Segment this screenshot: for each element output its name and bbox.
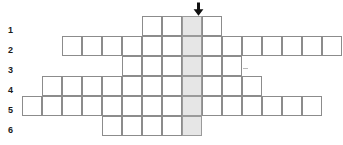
row-number-3: 3 xyxy=(8,66,20,75)
puzzle-cell[interactable] xyxy=(122,56,142,76)
row-number-1: 1 xyxy=(8,26,20,35)
puzzle-cell[interactable] xyxy=(262,36,282,56)
puzzle-cell[interactable] xyxy=(322,36,342,56)
puzzle-cell[interactable] xyxy=(142,56,162,76)
puzzle-cell[interactable] xyxy=(142,96,162,116)
puzzle-cell[interactable] xyxy=(102,96,122,116)
row-number-5: 5 xyxy=(8,106,20,115)
puzzle-cell[interactable] xyxy=(162,116,182,136)
puzzle-cell[interactable] xyxy=(162,16,182,36)
puzzle-cell[interactable] xyxy=(142,76,162,96)
crossword-puzzle-grid: 123456 xyxy=(0,0,343,145)
faint-mark-row-3 xyxy=(243,68,248,69)
puzzle-cell[interactable] xyxy=(162,96,182,116)
puzzle-cell[interactable] xyxy=(142,16,162,36)
puzzle-cell[interactable] xyxy=(42,96,62,116)
puzzle-cell[interactable] xyxy=(302,36,322,56)
puzzle-cell[interactable] xyxy=(122,76,142,96)
row-number-4: 4 xyxy=(8,86,20,95)
puzzle-cell[interactable] xyxy=(82,76,102,96)
puzzle-cell[interactable] xyxy=(222,76,242,96)
puzzle-cell[interactable] xyxy=(302,96,322,116)
puzzle-cell[interactable] xyxy=(82,96,102,116)
row-number-2: 2 xyxy=(8,46,20,55)
puzzle-cell-highlighted[interactable] xyxy=(182,116,202,136)
puzzle-cell[interactable] xyxy=(202,76,222,96)
puzzle-cell[interactable] xyxy=(162,56,182,76)
puzzle-cell[interactable] xyxy=(62,76,82,96)
puzzle-cell[interactable] xyxy=(122,116,142,136)
puzzle-cell[interactable] xyxy=(242,36,262,56)
puzzle-cell-highlighted[interactable] xyxy=(182,76,202,96)
puzzle-cell[interactable] xyxy=(222,96,242,116)
row-number-6: 6 xyxy=(8,126,20,135)
puzzle-cell-highlighted[interactable] xyxy=(182,16,202,36)
puzzle-cell-highlighted[interactable] xyxy=(182,36,202,56)
puzzle-cell[interactable] xyxy=(162,76,182,96)
puzzle-cell[interactable] xyxy=(102,116,122,136)
puzzle-cell[interactable] xyxy=(122,96,142,116)
puzzle-cell[interactable] xyxy=(202,56,222,76)
puzzle-cell[interactable] xyxy=(242,76,262,96)
puzzle-cell-highlighted[interactable] xyxy=(182,96,202,116)
puzzle-cell[interactable] xyxy=(162,36,182,56)
puzzle-cell[interactable] xyxy=(262,96,282,116)
puzzle-cell[interactable] xyxy=(282,36,302,56)
puzzle-cell[interactable] xyxy=(102,76,122,96)
puzzle-cell[interactable] xyxy=(202,16,222,36)
puzzle-cell[interactable] xyxy=(102,36,122,56)
puzzle-cell[interactable] xyxy=(142,36,162,56)
puzzle-cell[interactable] xyxy=(202,96,222,116)
puzzle-cell[interactable] xyxy=(282,96,302,116)
puzzle-cell[interactable] xyxy=(82,36,102,56)
puzzle-cell[interactable] xyxy=(62,36,82,56)
puzzle-cell[interactable] xyxy=(222,56,242,76)
puzzle-cell[interactable] xyxy=(22,96,42,116)
puzzle-cell[interactable] xyxy=(42,76,62,96)
puzzle-cell[interactable] xyxy=(242,96,262,116)
puzzle-cell[interactable] xyxy=(62,96,82,116)
puzzle-cell[interactable] xyxy=(222,36,242,56)
puzzle-cell[interactable] xyxy=(202,36,222,56)
puzzle-cell-highlighted[interactable] xyxy=(182,56,202,76)
puzzle-cell[interactable] xyxy=(142,116,162,136)
puzzle-cell[interactable] xyxy=(122,36,142,56)
